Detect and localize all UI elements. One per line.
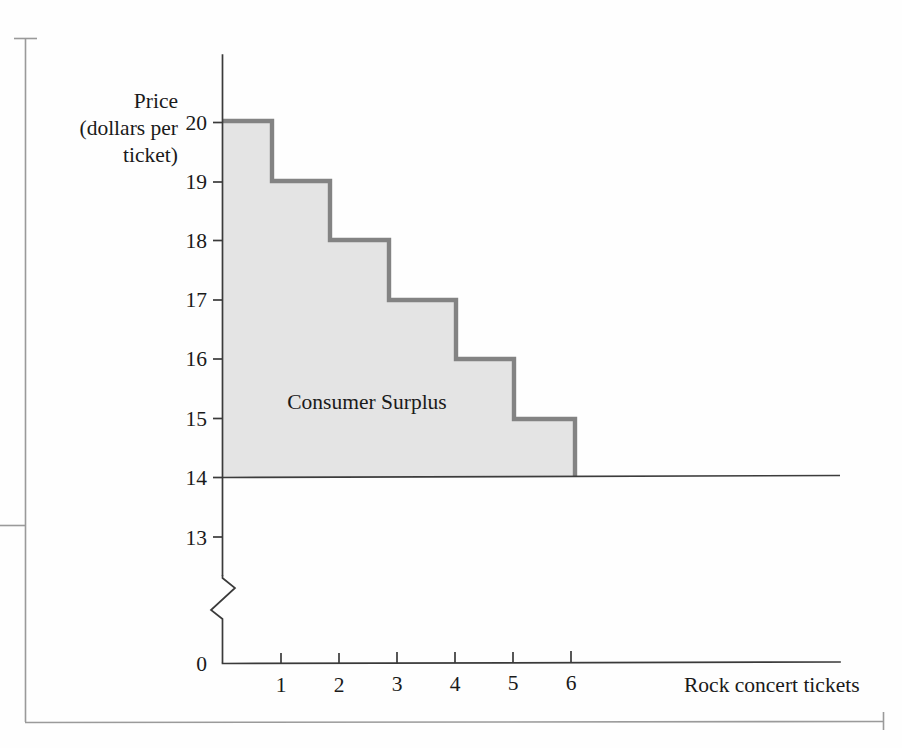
y-tick-label-14: 14 xyxy=(186,466,208,490)
x-axis-title: Rock concert tickets xyxy=(684,673,860,697)
y-axis-title-line-1: Price xyxy=(134,89,178,113)
y-axis-title-line-2: (dollars per xyxy=(79,116,178,140)
x-tick-label-3: 3 xyxy=(392,672,403,696)
consumer-surplus-area xyxy=(223,121,575,477)
x-axis xyxy=(223,651,841,664)
consumer-surplus-figure: 20 19 18 17 16 15 14 13 0 1 2 3 4 5 6 Pr… xyxy=(0,0,902,748)
x-tick-label-1: 1 xyxy=(276,673,287,697)
y-tick-label-15: 15 xyxy=(186,407,208,431)
y-tick-label-0: 0 xyxy=(196,652,207,676)
y-tick-label-18: 18 xyxy=(186,229,208,253)
y-tick-label-13: 13 xyxy=(186,526,208,550)
x-axis-line xyxy=(223,662,841,664)
x-tick-label-2: 2 xyxy=(334,673,345,697)
y-tick-label-17: 17 xyxy=(186,288,208,312)
y-tick-label-20: 20 xyxy=(186,111,208,135)
x-tick-label-5: 5 xyxy=(508,671,519,695)
chart-canvas: 20 19 18 17 16 15 14 13 0 1 2 3 4 5 6 Pr… xyxy=(0,0,902,748)
y-tick-label-16: 16 xyxy=(186,347,208,371)
consumer-surplus-label: Consumer Surplus xyxy=(287,390,446,414)
y-axis-title: Price (dollars per ticket) xyxy=(79,89,178,167)
frame-bottom-line xyxy=(25,722,884,723)
y-axis-break-zigzag xyxy=(211,575,235,663)
y-axis-title-line-3: ticket) xyxy=(123,143,178,167)
x-tick-label-6: 6 xyxy=(566,671,577,695)
x-tick-label-4: 4 xyxy=(450,672,461,696)
y-tick-label-19: 19 xyxy=(186,170,208,194)
